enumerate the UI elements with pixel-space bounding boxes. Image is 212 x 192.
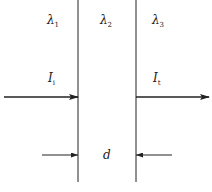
- transmitted-intensity-label: It: [152, 71, 161, 87]
- svg-text:It: It: [152, 71, 161, 87]
- svg-text:Ii: Ii: [47, 71, 56, 87]
- svg-text:λ2: λ2: [99, 13, 112, 29]
- region-label-2: λ2: [99, 13, 112, 29]
- svg-text:λ1: λ1: [46, 13, 59, 29]
- region-label-1: λ1: [46, 13, 59, 29]
- svg-text:λ3: λ3: [151, 13, 164, 29]
- region-label-3: λ3: [151, 13, 164, 29]
- thin-film-diagram: λ1 λ2 λ3 Ii It d: [0, 0, 212, 192]
- incident-intensity-label: Ii: [47, 71, 56, 87]
- thickness-label: d: [103, 148, 111, 162]
